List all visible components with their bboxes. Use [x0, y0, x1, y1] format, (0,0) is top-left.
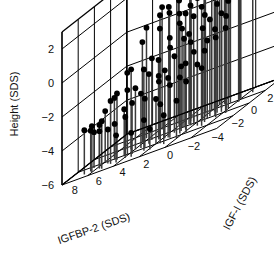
data-point — [142, 96, 148, 102]
data-point — [200, 25, 206, 31]
tick-label: 4 — [119, 166, 125, 178]
tick-label: 0 — [167, 149, 173, 161]
data-point — [133, 85, 139, 91]
tick-label: −6 — [41, 179, 54, 191]
data-point — [202, 12, 208, 18]
data-point — [165, 75, 171, 81]
data-point — [194, 0, 200, 1]
data-point — [177, 20, 183, 26]
data-point — [97, 122, 103, 128]
data-point — [157, 101, 163, 107]
data-point — [183, 10, 189, 16]
data-point — [156, 57, 162, 63]
data-point — [141, 117, 147, 123]
tick-label: 0 — [251, 104, 257, 116]
data-point — [153, 96, 159, 102]
tick-label: 0 — [48, 77, 54, 89]
data-point — [181, 36, 187, 42]
data-point — [188, 39, 194, 45]
plot-canvas: 20−2−4−686420−2−4−2024Height (SDS)IGFBP-… — [0, 0, 274, 256]
data-point — [191, 49, 197, 55]
data-point — [167, 35, 173, 41]
data-point — [111, 95, 117, 101]
tick-label: 6 — [96, 175, 102, 187]
data-point — [212, 26, 218, 32]
data-point — [159, 4, 165, 10]
data-point — [178, 63, 184, 69]
data-point — [157, 26, 163, 32]
data-point — [139, 39, 145, 45]
data-point — [167, 10, 173, 16]
data-point — [204, 38, 210, 44]
data-point — [188, 3, 194, 9]
data-point — [97, 128, 103, 134]
tick-label: 8 — [72, 184, 78, 196]
data-point — [144, 25, 150, 31]
data-point — [167, 45, 173, 51]
data-point — [146, 71, 152, 77]
data-point — [91, 129, 97, 135]
tick-label: −2 — [232, 117, 245, 129]
data-point — [167, 82, 173, 88]
data-point — [177, 11, 183, 17]
tick-label: −4 — [211, 131, 224, 143]
data-point — [223, 25, 229, 31]
data-point — [138, 91, 144, 97]
data-point — [207, 17, 213, 23]
data-point — [157, 12, 163, 18]
data-point — [199, 4, 205, 10]
axis-title: IGFBP-2 (SDS) — [56, 210, 132, 246]
tick-label: 2 — [143, 158, 149, 170]
data-point — [141, 67, 147, 73]
data-point — [219, 10, 225, 16]
data-point — [202, 48, 208, 54]
data-point — [213, 35, 219, 41]
data-point — [81, 127, 87, 133]
scatter3d-figure: 20−2−4−686420−2−4−2024Height (SDS)IGFBP-… — [0, 0, 274, 256]
data-point — [166, 4, 172, 10]
data-point — [105, 127, 111, 133]
data-point — [177, 74, 183, 80]
data-point — [156, 79, 162, 85]
grid-line — [62, 128, 217, 185]
tick-label: 2 — [267, 92, 273, 104]
data-point — [112, 121, 118, 127]
tick-label: 2 — [48, 43, 54, 55]
data-point — [162, 67, 168, 73]
data-point — [179, 26, 185, 32]
data-point — [102, 108, 108, 114]
tick-label: −4 — [41, 145, 54, 157]
axis-title: IGF-I (SDS) — [221, 175, 259, 232]
data-point — [156, 73, 162, 79]
data-point — [191, 13, 197, 19]
data-point — [186, 31, 192, 37]
data-point — [129, 100, 135, 106]
data-point — [174, 98, 180, 104]
data-point — [161, 112, 167, 118]
data-point — [113, 132, 119, 138]
axis-title: Height (SDS) — [8, 72, 20, 137]
grid-line — [127, 10, 274, 67]
data-point — [214, 1, 220, 7]
tick-label: −2 — [41, 111, 54, 123]
data-point — [194, 62, 200, 68]
data-point — [172, 53, 178, 59]
data-point — [183, 79, 189, 85]
data-point — [149, 55, 155, 61]
tick-label: −2 — [188, 140, 201, 152]
